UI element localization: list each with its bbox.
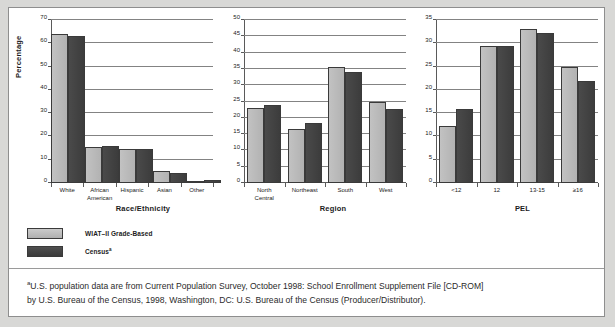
x-tick-label: West [366,187,407,202]
y-tick-label: 30 [233,79,240,85]
x-tick-label: 12 [477,187,518,195]
x-tick-label: Northeast [285,187,326,202]
bar-group [436,20,477,183]
x-labels-pel: <121213-15≥16 [436,187,598,195]
bar[interactable] [170,173,187,183]
y-axis-label-race: Percentage [14,54,23,66]
figure-footnote: aU.S. population data are from Current P… [27,276,593,307]
chart-legend: WIAT–II Grade-Based Censusa [27,224,257,260]
bar[interactable] [345,72,362,183]
footnote-divider [9,268,604,269]
x-tick-mark [598,183,599,187]
bar[interactable] [456,109,473,184]
bar[interactable] [153,171,170,183]
x-tick-label: AfricanAmerican [83,187,115,202]
y-tick-label: 10 [425,130,432,136]
bar[interactable] [386,109,403,183]
axis-area-race: 010203040506070 WhiteAfricanAmericanHisp… [51,20,213,183]
y-tick-label: 35 [233,63,240,69]
bar-group [119,20,153,183]
y-tick-label: 15 [233,128,240,134]
bar-group [51,20,85,183]
plot-area-race: Percentage 010203040506070 WhiteAfricanA… [13,8,213,208]
bars-pel [436,20,598,183]
y-tick-label: 30 [425,37,432,43]
x-axis-title-race: Race/Ethnicity [13,204,243,213]
x-labels-race: WhiteAfricanAmericanHispanicAsianOther [51,187,213,202]
y-tick-label: 20 [40,130,47,136]
x-tick-label: Asian [148,187,180,202]
legend-swatch-dark [27,246,63,257]
y-tick-label: 20 [233,112,240,118]
x-axis-title-pel: PEL [413,204,615,213]
y-tick-label: 15 [425,107,432,113]
bar[interactable] [51,34,68,183]
x-tick-label: <12 [436,187,477,195]
bar[interactable] [369,102,386,183]
chart-pel: 05101520253035 <121213-15≥16 PEL [413,8,604,266]
y-tick-label: 40 [233,47,240,53]
bar-group [325,20,366,183]
bars-region [244,20,406,183]
bar[interactable] [136,149,153,183]
bar[interactable] [578,81,595,183]
bar[interactable] [119,149,136,183]
bar-group [366,20,407,183]
legend-label-census-text: Census [85,248,109,255]
bar-group [477,20,518,183]
bar[interactable] [85,147,102,183]
x-tick-label: 13-15 [517,187,558,195]
bar[interactable] [288,129,305,183]
axis-area-region: 05101520253035404550 NorthCentralNorthea… [244,20,406,183]
plot-area-pel: 05101520253035 <121213-15≥16 [413,8,604,208]
y-tick-label: 30 [40,107,47,113]
y-tick-label: 60 [40,37,47,43]
x-tick-label: White [51,187,83,202]
x-tick-label: Hispanic [116,187,148,202]
y-tick-label: 25 [425,61,432,67]
y-tick-label: 40 [40,84,47,90]
axis-area-pel: 05101520253035 <121213-15≥16 [436,20,598,183]
bars-race [51,20,213,183]
legend-label-census: Censusa [85,247,112,255]
y-tick-label: 0 [237,177,240,183]
bar[interactable] [537,33,554,183]
legend-footnote-marker: a [109,247,112,252]
footnote-line-2: by U.S. Bureau of the Census, 1998, Wash… [27,293,593,307]
y-tick-label: 5 [429,154,432,160]
y-tick-label: 50 [40,61,47,67]
bar[interactable] [561,67,578,183]
legend-label-wiat: WIAT–II Grade-Based [85,230,153,237]
bar-group [517,20,558,183]
bar[interactable] [68,36,85,183]
bar-group [558,20,599,183]
y-tick-label: 50 [233,14,240,20]
legend-swatch-light [27,228,63,239]
bar[interactable] [520,29,537,183]
bar[interactable] [102,146,119,183]
y-tick-label: 10 [233,144,240,150]
bar[interactable] [328,67,345,183]
y-tick-label: 35 [425,14,432,20]
bar[interactable] [497,46,514,183]
x-axis-title-region: Region [214,204,432,213]
bar[interactable] [264,105,281,183]
bar-group [285,20,326,183]
bar[interactable] [247,108,264,183]
x-tick-label: ≥16 [558,187,599,195]
x-labels-region: NorthCentralNortheastSouthWest [244,187,406,202]
y-tick-label: 0 [429,177,432,183]
footnote-line-1: U.S. population data are from Current Po… [30,281,483,291]
x-tick-label: NorthCentral [244,187,285,202]
x-tick-label: South [325,187,366,202]
bar-group [85,20,119,183]
bar-group [153,20,187,183]
y-tick-label: 0 [44,177,47,183]
y-tick-label: 70 [40,14,47,20]
x-tick-mark [406,183,407,187]
x-tick-label: Other [181,187,213,202]
bar[interactable] [439,126,456,183]
bar[interactable] [305,123,322,183]
bar[interactable] [480,46,497,183]
y-tick-label: 20 [425,84,432,90]
